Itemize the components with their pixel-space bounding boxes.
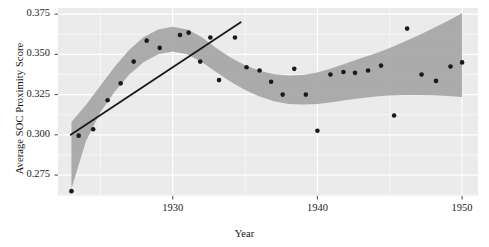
x-tick-label: 1940 xyxy=(287,202,347,213)
y-tick-label: 0.375 xyxy=(6,7,50,18)
x-tick-label: 1930 xyxy=(143,202,203,213)
x-axis-title: Year xyxy=(0,228,489,239)
x-tick-label: 1950 xyxy=(432,202,489,213)
chart-container: 0.2750.3000.3250.3500.375 193019401950 A… xyxy=(0,0,489,247)
scatter-plot-svg xyxy=(0,0,489,247)
y-axis-title: Average SOC Proximity Score xyxy=(14,29,25,189)
